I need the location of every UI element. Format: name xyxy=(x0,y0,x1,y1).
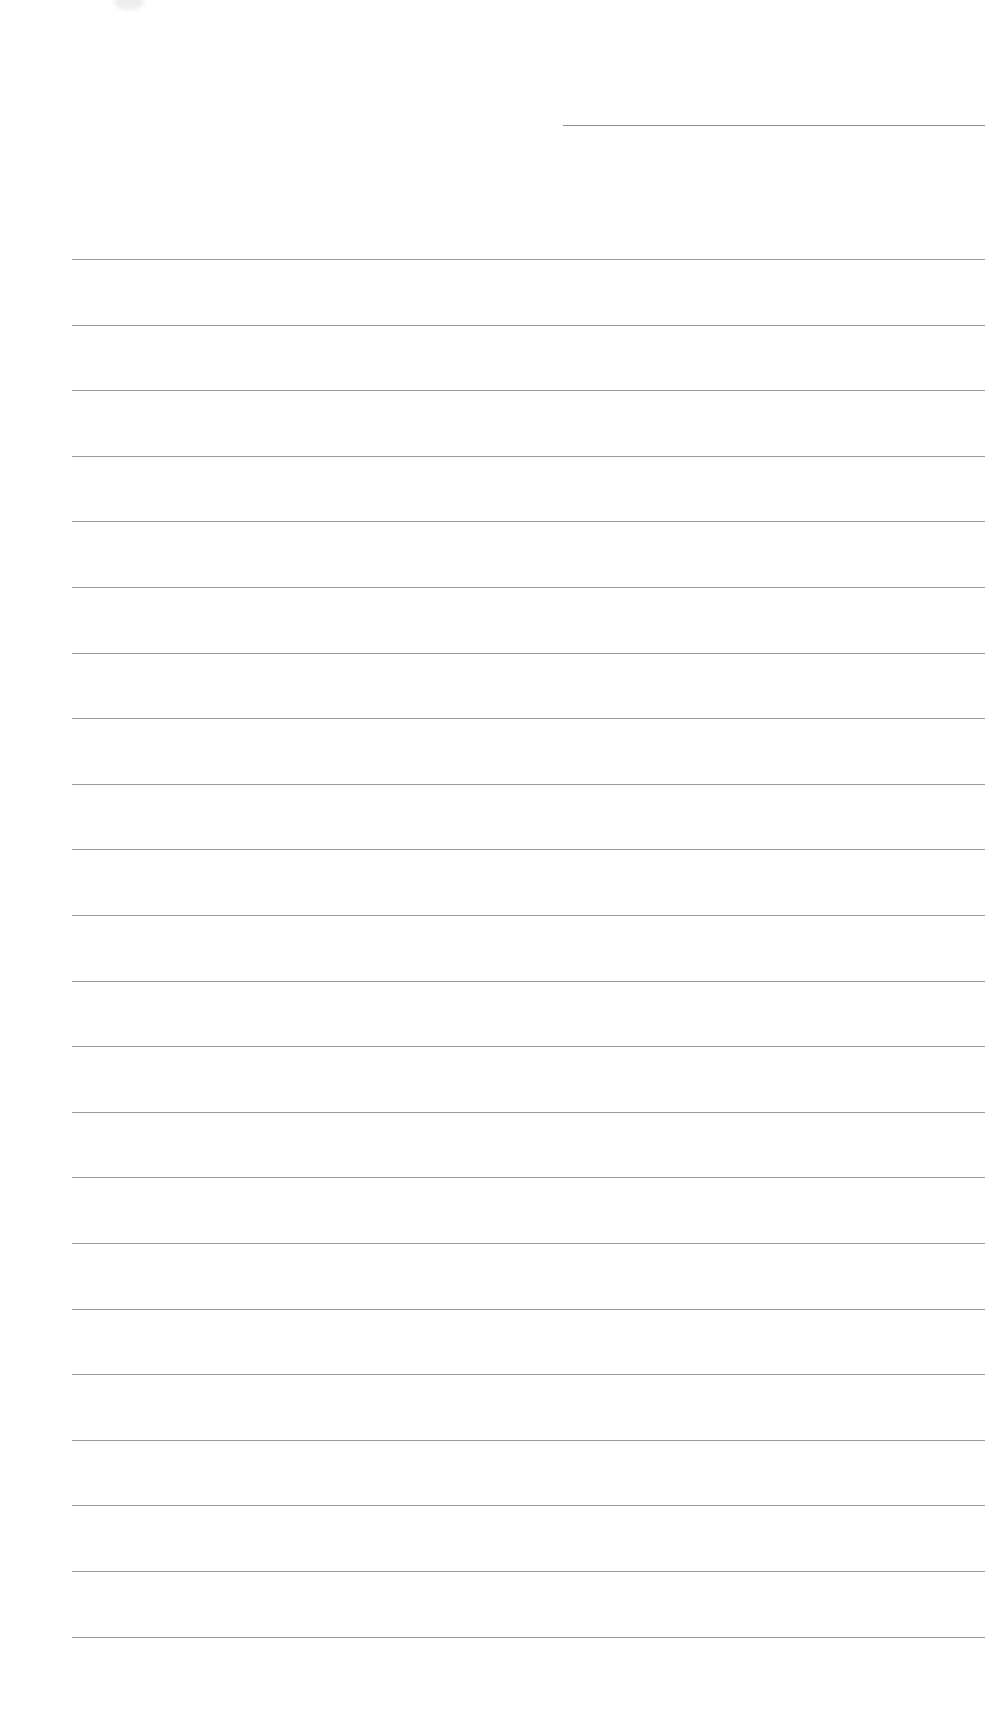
ruled-line xyxy=(72,1243,985,1244)
ruled-line xyxy=(72,587,985,588)
ruled-line xyxy=(72,1571,985,1572)
ruled-line xyxy=(72,1440,985,1441)
ruled-line xyxy=(72,521,985,522)
ruled-lines xyxy=(72,0,985,1716)
ruled-line xyxy=(72,653,985,654)
lined-paper-page xyxy=(0,0,1005,1716)
ruled-line xyxy=(72,1505,985,1506)
ruled-line xyxy=(72,456,985,457)
ruled-line xyxy=(72,390,985,391)
ruled-line xyxy=(72,849,985,850)
ruled-line xyxy=(72,915,985,916)
ruled-line xyxy=(72,784,985,785)
ruled-line xyxy=(72,1637,985,1638)
ruled-line xyxy=(72,1177,985,1178)
ruled-line xyxy=(72,1309,985,1310)
ruled-line xyxy=(72,1374,985,1375)
ruled-line xyxy=(72,259,985,260)
ruled-line xyxy=(72,1112,985,1113)
ruled-line xyxy=(72,1046,985,1047)
ruled-line xyxy=(72,325,985,326)
ruled-line xyxy=(72,718,985,719)
ruled-line xyxy=(72,981,985,982)
